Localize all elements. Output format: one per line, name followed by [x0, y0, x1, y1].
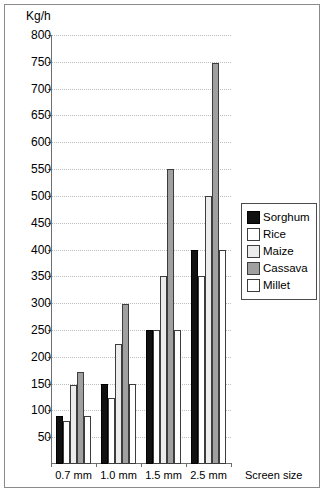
- legend-item-rice[interactable]: Rice: [247, 226, 312, 243]
- x-axis-title: Screen size: [245, 469, 302, 482]
- legend-swatch-icon: [247, 279, 260, 292]
- y-axis-tick-label: 600: [0, 136, 51, 148]
- bar-sorghum-2: [146, 330, 153, 464]
- legend-item-maize[interactable]: Maize: [247, 243, 312, 260]
- legend-item-millet[interactable]: Millet: [247, 277, 312, 294]
- legend-swatch-icon: [247, 211, 260, 224]
- y-axis-tick-label: 350: [0, 270, 51, 282]
- chart-legend: SorghumRiceMaizeCassavaMillet: [241, 203, 317, 300]
- y-axis-tick-label: 800: [0, 29, 51, 41]
- x-axis-tick-mark: [96, 463, 97, 467]
- bar-group: [101, 35, 137, 464]
- bar-rice-3: [198, 276, 205, 464]
- legend-item-label: Cassava: [263, 262, 308, 275]
- bar-cassava-0: [77, 372, 84, 464]
- bar-maize-0: [70, 385, 77, 464]
- bar-group: [56, 35, 92, 464]
- bar-group: [191, 35, 227, 464]
- bar-millet-2: [174, 330, 181, 464]
- legend-item-label: Sorghum: [263, 211, 310, 224]
- y-axis-tick-label: 700: [0, 83, 51, 95]
- legend-item-cassava[interactable]: Cassava: [247, 260, 312, 277]
- bar-sorghum-3: [191, 250, 198, 465]
- y-axis-tick-label: 450: [0, 217, 51, 229]
- bar-cassava-2: [167, 169, 174, 464]
- y-axis-tick-label: 400: [0, 244, 51, 256]
- y-axis-tick-label: 50: [0, 431, 51, 443]
- y-axis-tick-label: 150: [0, 378, 51, 390]
- x-axis-tick-mark: [51, 463, 52, 467]
- legend-item-label: Maize: [263, 245, 294, 258]
- bar-sorghum-0: [56, 416, 63, 464]
- y-axis-tick-label: 250: [0, 324, 51, 336]
- y-axis-tick-label: 200: [0, 351, 51, 363]
- x-axis-tick-mark: [231, 463, 232, 467]
- x-axis-tick-label: 2.5 mm: [186, 469, 231, 482]
- legend-item-label: Millet: [263, 279, 290, 292]
- bar-millet-1: [129, 384, 136, 464]
- bar-cassava-1: [122, 304, 129, 464]
- bar-group: [146, 35, 182, 464]
- y-axis-tick-label: 550: [0, 163, 51, 175]
- legend-swatch-icon: [247, 228, 260, 241]
- chart-plot-area: Kg/h 80075070065060055050045040035030025…: [0, 0, 325, 493]
- legend-item-sorghum[interactable]: Sorghum: [247, 209, 312, 226]
- x-axis-tick-mark: [141, 463, 142, 467]
- y-axis-line: [51, 35, 52, 464]
- legend-swatch-icon: [247, 262, 260, 275]
- bar-millet-0: [84, 416, 91, 464]
- bar-rice-2: [153, 330, 160, 464]
- bar-rice-0: [63, 421, 70, 464]
- y-axis-tick-label: 750: [0, 56, 51, 68]
- y-axis-unit-label: Kg/h: [26, 10, 51, 22]
- x-axis-tick-label: 0.7 mm: [51, 469, 96, 482]
- bar-maize-3: [205, 196, 212, 464]
- y-axis-tick-label: 300: [0, 297, 51, 309]
- x-axis-tick-label: 1.5 mm: [141, 469, 186, 482]
- bar-millet-3: [219, 250, 226, 465]
- y-axis-tick-label: 500: [0, 190, 51, 202]
- legend-swatch-icon: [247, 245, 260, 258]
- bar-chart-figure: Kg/h 80075070065060055050045040035030025…: [0, 0, 325, 493]
- y-axis-tick-label: 100: [0, 404, 51, 416]
- x-axis-tick-label: 1.0 mm: [96, 469, 141, 482]
- legend-item-label: Rice: [263, 228, 286, 241]
- bar-cassava-3: [212, 63, 219, 464]
- bar-maize-2: [160, 276, 167, 464]
- bar-sorghum-1: [101, 384, 108, 464]
- x-axis-tick-mark: [186, 463, 187, 467]
- bar-rice-1: [108, 398, 115, 464]
- y-axis-tick-label: 650: [0, 109, 51, 121]
- bar-maize-1: [115, 344, 122, 464]
